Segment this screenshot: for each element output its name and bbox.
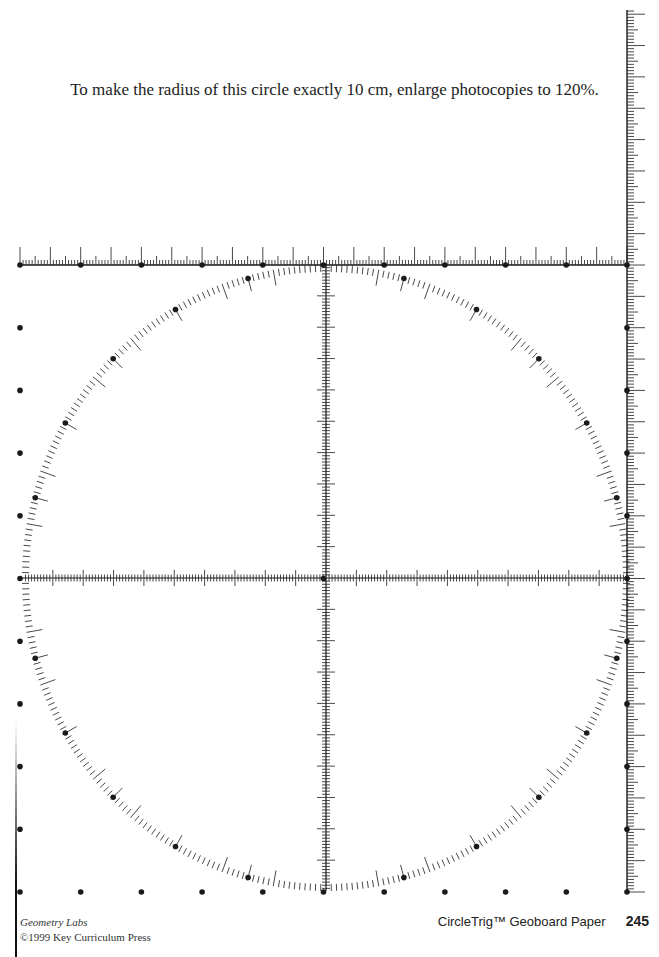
geoboard-peg <box>624 827 630 833</box>
circletrig-geoboard-figure <box>0 0 659 957</box>
geoboard-peg <box>564 262 570 268</box>
series-title: Geometry Labs <box>20 915 151 930</box>
geoboard-peg <box>624 638 630 644</box>
geoboard-peg <box>584 730 590 736</box>
geoboard-peg <box>564 889 570 895</box>
geoboard-peg <box>245 276 251 282</box>
geoboard-peg <box>78 889 84 895</box>
geoboard-peg <box>260 262 266 268</box>
geoboard-peg <box>139 262 145 268</box>
geoboard-peg <box>442 262 448 268</box>
geoboard-peg <box>17 388 23 394</box>
geoboard-peg <box>17 325 23 331</box>
geoboard-peg <box>17 513 23 519</box>
geoboard-peg <box>624 576 630 582</box>
geoboard-peg <box>17 827 23 833</box>
geoboard-peg <box>139 889 145 895</box>
geoboard-peg <box>503 262 509 268</box>
geoboard-peg <box>110 794 116 800</box>
geoboard-peg <box>624 764 630 770</box>
geoboard-peg <box>321 576 327 582</box>
geoboard-peg <box>32 655 38 661</box>
geoboard-peg <box>381 889 387 895</box>
geoboard-peg <box>503 889 509 895</box>
geoboard-peg <box>614 655 620 661</box>
geoboard-peg <box>624 262 630 268</box>
geoboard-peg <box>536 794 542 800</box>
geoboard-peg <box>173 844 179 850</box>
geoboard-peg <box>401 875 407 881</box>
geoboard-peg <box>17 450 23 456</box>
geoboard-peg <box>63 730 69 736</box>
geoboard-peg <box>32 495 38 501</box>
page-title: CircleTrig™ Geoboard Paper <box>438 914 606 929</box>
geoboard-peg <box>442 889 448 895</box>
copyright: ©1999 Key Curriculum Press <box>20 930 151 945</box>
footer-left: Geometry Labs ©1999 Key Curriculum Press <box>20 915 151 945</box>
geoboard-peg <box>17 764 23 770</box>
geoboard-peg <box>624 889 630 895</box>
geoboard-peg <box>17 701 23 707</box>
geoboard-peg <box>260 889 266 895</box>
geoboard-peg <box>584 420 590 426</box>
geoboard-peg <box>17 262 23 268</box>
geoboard-peg <box>17 576 23 582</box>
geoboard-peg <box>401 276 407 282</box>
geoboard-peg <box>624 701 630 707</box>
geoboard-peg <box>474 844 480 850</box>
geoboard-peg <box>624 450 630 456</box>
geoboard-peg <box>536 356 542 362</box>
geoboard-peg <box>173 307 179 313</box>
page-edge-line <box>15 720 17 957</box>
geoboard-peg <box>110 356 116 362</box>
geoboard-peg <box>614 495 620 501</box>
rulers <box>20 10 645 892</box>
geoboard-peg <box>17 638 23 644</box>
geoboard-peg <box>245 875 251 881</box>
geoboard-peg <box>321 262 327 268</box>
geoboard-peg <box>474 307 480 313</box>
geoboard-peg <box>199 262 205 268</box>
geoboard-peg <box>17 889 23 895</box>
footer-right: CircleTrig™ Geoboard Paper245 <box>438 913 649 929</box>
geoboard-peg <box>381 262 387 268</box>
page-number: 245 <box>626 913 649 929</box>
geoboard-peg <box>199 889 205 895</box>
geoboard-peg <box>63 420 69 426</box>
geoboard-peg <box>321 889 327 895</box>
geoboard-peg <box>624 513 630 519</box>
geoboard-peg <box>624 325 630 331</box>
geoboard-peg <box>624 388 630 394</box>
geoboard-peg <box>78 262 84 268</box>
